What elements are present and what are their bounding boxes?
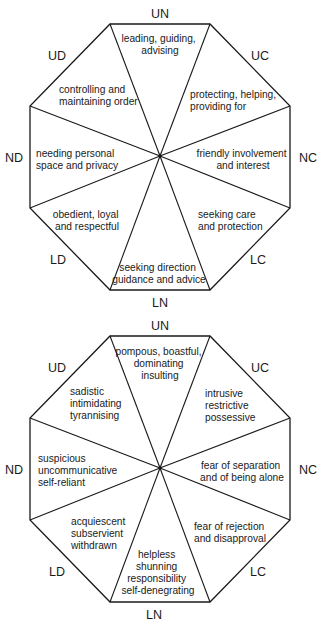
label-ud: UD: [48, 361, 66, 375]
label-uc: UC: [251, 361, 269, 375]
sector-lc-text: fear of rejection and disapproval: [194, 521, 267, 544]
sector-nc-text: fear of separation and of being alone: [200, 460, 284, 483]
sector-ln-text: seeking direction guidance and advice: [112, 262, 206, 285]
sector-nd-text: needing personal space and privacy: [36, 148, 119, 171]
octagon-maladaptive: UN UC NC LC LN LD ND UD pompous, boastfu…: [5, 319, 317, 622]
label-ud: UD: [48, 49, 66, 63]
octagon-diagrams: UN UC NC LC LN LD ND UD leading, guiding…: [0, 0, 327, 628]
center-dot: [158, 466, 162, 470]
label-nc: NC: [299, 463, 317, 477]
label-un: UN: [151, 319, 169, 333]
center-dot: [158, 154, 162, 158]
sector-lc-text: seeking care and protection: [198, 209, 263, 232]
label-nd: ND: [5, 151, 23, 165]
label-lc: LC: [250, 253, 266, 267]
label-un: UN: [151, 7, 169, 21]
label-ln: LN: [146, 608, 162, 622]
octagon-adaptive: UN UC NC LC LN LD ND UD leading, guiding…: [5, 7, 317, 310]
label-nd: ND: [5, 463, 23, 477]
sector-ld-text: obedient, loyal and respectful: [53, 209, 122, 232]
label-lc: LC: [250, 565, 266, 579]
label-uc: UC: [251, 49, 269, 63]
label-ln: LN: [152, 296, 168, 310]
label-ld: LD: [49, 565, 65, 579]
label-ld: LD: [50, 253, 66, 267]
sector-ud-text: controlling and maintaining order: [59, 84, 138, 107]
label-nc: NC: [299, 151, 317, 165]
